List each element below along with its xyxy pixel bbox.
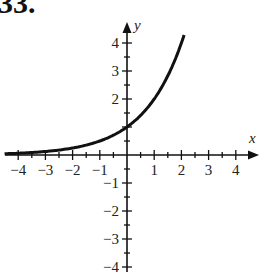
axes	[5, 22, 259, 272]
x-tick-label: 3	[205, 162, 213, 178]
x-tick-label: 2	[178, 162, 186, 178]
x-axis-arrow-icon	[248, 151, 259, 160]
x-tick-label: −3	[37, 162, 53, 178]
x-tick-label: 1	[150, 162, 158, 178]
y-tick-label: −3	[103, 231, 119, 247]
x-tick-label: −2	[65, 162, 81, 178]
y-axis-label: y	[132, 17, 141, 33]
tick-labels: xy−4−3−2−11234432−1−2−3−4	[10, 17, 256, 274]
function-curve	[5, 35, 185, 154]
y-tick-label: −2	[103, 203, 119, 219]
y-axis-arrow-icon	[123, 22, 132, 33]
y-tick-label: 4	[112, 35, 120, 51]
x-tick-label: −4	[10, 162, 26, 178]
x-tick-label: 4	[232, 162, 240, 178]
y-tick-label: −1	[103, 175, 119, 191]
exponential-graph: xy−4−3−2−11234432−1−2−3−4	[0, 0, 265, 274]
y-tick-label: 2	[112, 91, 120, 107]
y-tick-label: 3	[112, 63, 120, 79]
y-tick-label: −4	[103, 259, 119, 274]
x-axis-label: x	[248, 130, 256, 146]
